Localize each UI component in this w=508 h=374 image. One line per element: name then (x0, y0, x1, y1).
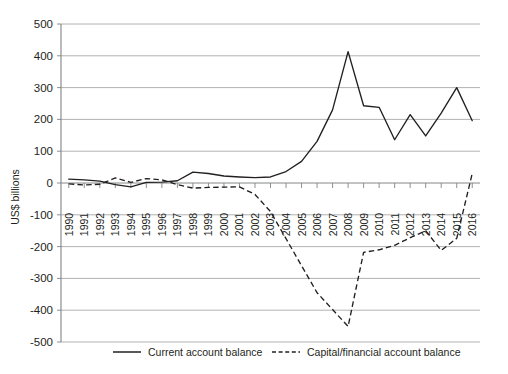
x-axis-tick-label: 2003 (265, 213, 277, 237)
x-axis-tick-labels-group: 1990199119921993199419951996199719981999… (63, 213, 478, 237)
x-axis-tick-label: 2000 (218, 213, 230, 237)
x-axis-tick-label: 1997 (171, 213, 183, 237)
legend-label-current-account-balance: Current account balance (148, 346, 263, 358)
x-axis-tick-label: 2014 (435, 213, 447, 237)
x-axis-tick-label: 1998 (187, 213, 199, 237)
x-axis-tick-label: 1996 (156, 213, 168, 237)
x-axis-tick-label: 2002 (249, 213, 261, 237)
y-axis-tick-label: -200 (30, 241, 53, 253)
x-axis-tick-label: 2012 (404, 213, 416, 237)
y-axis-ticks-group (57, 24, 61, 342)
x-axis-tick-label: 2006 (311, 213, 323, 237)
x-axis-tick-label: 1992 (94, 213, 106, 237)
series-line-capital-financial-account-balance (69, 173, 472, 326)
x-axis-tick-label: 1994 (125, 213, 137, 237)
x-axis-tick-label: 1993 (109, 213, 121, 237)
y-axis-tick-label: 400 (34, 50, 53, 62)
x-axis-tick-label: 2001 (233, 213, 245, 237)
x-axis-tick-label: 2008 (342, 213, 354, 237)
x-axis-tick-label: 1991 (78, 213, 90, 237)
x-axis-tick-label: 2007 (327, 213, 339, 237)
x-axis-tick-label: 2005 (296, 213, 308, 237)
x-axis-tick-label: 1999 (202, 213, 214, 237)
x-axis-tick-label: 2016 (466, 213, 478, 237)
y-axis-tick-labels-group: 5004003002001000-100-200-300-400-500 (30, 18, 53, 348)
line-chart: 5004003002001000-100-200-300-400-500 199… (0, 0, 508, 374)
y-axis-tick-label: 200 (34, 113, 53, 125)
legend-label-capital-financial-account-balance: Capital/financial account balance (307, 346, 461, 358)
y-axis-tick-label: -300 (30, 272, 53, 284)
y-axis-tick-label: -400 (30, 304, 53, 316)
y-axis-title: US$ billions (9, 169, 21, 224)
y-axis-tick-label: 0 (47, 177, 53, 189)
x-axis-tick-label: 2009 (358, 213, 370, 237)
y-axis-tick-label: 100 (34, 145, 53, 157)
x-axis-tick-label: 1995 (140, 213, 152, 237)
y-axis-tick-label: -500 (30, 336, 53, 348)
chart-container: 5004003002001000-100-200-300-400-500 199… (0, 0, 508, 374)
x-axis-tick-label: 2015 (451, 213, 463, 237)
y-axis-tick-label: 500 (34, 18, 53, 30)
x-axis-tick-label: 2011 (389, 213, 401, 236)
x-axis-tick-label: 1990 (63, 213, 75, 237)
legend: Current account balance Capital/financia… (113, 346, 461, 358)
y-axis-tick-label: 300 (34, 82, 53, 94)
y-axis-tick-label: -100 (30, 209, 53, 221)
x-axis-tick-label: 2010 (373, 213, 385, 237)
